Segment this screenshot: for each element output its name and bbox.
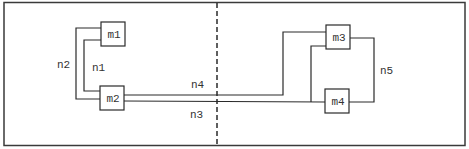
net-n5-wire bbox=[349, 38, 374, 102]
net-n1-label: n1 bbox=[92, 62, 106, 74]
module-m3-label: m3 bbox=[332, 32, 345, 44]
module-m1-label: m1 bbox=[107, 29, 121, 41]
module-m3: m3 bbox=[326, 25, 350, 49]
net-n3-branch-wire bbox=[311, 46, 326, 102]
net-n4-wire bbox=[124, 32, 326, 95]
net-n3-wire bbox=[124, 101, 325, 102]
diagram-frame bbox=[4, 3, 465, 146]
net-n4-label: n4 bbox=[191, 79, 205, 91]
module-m2: m2 bbox=[100, 86, 124, 110]
net-n3-label: n3 bbox=[190, 109, 203, 121]
netlist-diagram: m1 m2 m3 m4 n2 n1 n4 n3 n5 bbox=[0, 0, 469, 149]
module-m4: m4 bbox=[325, 89, 349, 113]
net-n5-label: n5 bbox=[380, 65, 393, 77]
module-m2-label: m2 bbox=[106, 93, 119, 105]
module-m1: m1 bbox=[101, 22, 125, 46]
net-n2-label: n2 bbox=[57, 59, 70, 71]
module-m4-label: m4 bbox=[331, 96, 345, 108]
